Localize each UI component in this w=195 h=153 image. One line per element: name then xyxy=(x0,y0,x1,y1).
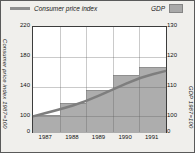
x-tick-1988: 1988 xyxy=(59,134,85,141)
x-tick-1989: 1989 xyxy=(86,134,112,141)
left-tick-180: 180 xyxy=(12,52,30,59)
right-axis-title: GDP 1987=100 xyxy=(188,61,194,153)
right-tick-100: 100 xyxy=(167,112,187,119)
legend-cpi-label: Consumer price index xyxy=(34,5,97,12)
right-tick-130: 130 xyxy=(167,22,187,29)
left-tick-140: 140 xyxy=(12,82,30,89)
x-tick-1987: 1987 xyxy=(32,134,58,141)
legend-item-cpi: Consumer price index xyxy=(10,3,97,13)
cpi-gdp-chart: Consumer price index GDP Consumer price … xyxy=(0,0,195,153)
right-tick-0: 0 xyxy=(167,128,187,135)
left-tick-220: 220 xyxy=(12,22,30,29)
left-tick-100: 100 xyxy=(12,112,30,119)
left-axis-title: Consumer price index 1987=100 xyxy=(2,28,8,140)
cpi-line-swatch-icon xyxy=(10,7,30,10)
x-tick-1990: 1990 xyxy=(112,134,138,141)
plot-area xyxy=(32,26,167,133)
legend-gdp-label: GDP xyxy=(151,5,165,12)
right-tick-110: 110 xyxy=(167,82,187,89)
cpi-line xyxy=(33,27,166,132)
gdp-bar-swatch-icon xyxy=(169,4,183,13)
left-tick-0: 0 xyxy=(12,128,30,135)
right-tick-120: 120 xyxy=(167,52,187,59)
x-tick-1991: 1991 xyxy=(139,134,165,141)
legend-item-gdp: GDP xyxy=(151,3,183,13)
